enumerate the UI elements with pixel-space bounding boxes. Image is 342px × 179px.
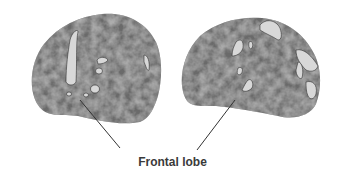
right-brain-render bbox=[182, 18, 320, 118]
frontal-lobe-label: Frontal lobe bbox=[120, 155, 225, 169]
left-brain-render bbox=[32, 14, 161, 124]
leader-line-right bbox=[197, 100, 235, 150]
figure-canvas bbox=[0, 0, 342, 179]
